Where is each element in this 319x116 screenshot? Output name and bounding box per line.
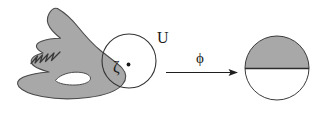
diagram-svg: U ζ ϕ: [0, 0, 319, 116]
figure-canvas: U ζ ϕ: [0, 0, 319, 116]
neighborhood-U-label: U: [157, 29, 169, 46]
map-phi-label: ϕ: [196, 50, 204, 66]
map-arrow-group: ϕ: [166, 50, 238, 76]
domain-blob-group: [17, 8, 125, 98]
point-zeta-dot: [127, 63, 131, 67]
point-zeta-label: ζ: [113, 58, 120, 76]
image-half-disk-group: [245, 36, 309, 100]
